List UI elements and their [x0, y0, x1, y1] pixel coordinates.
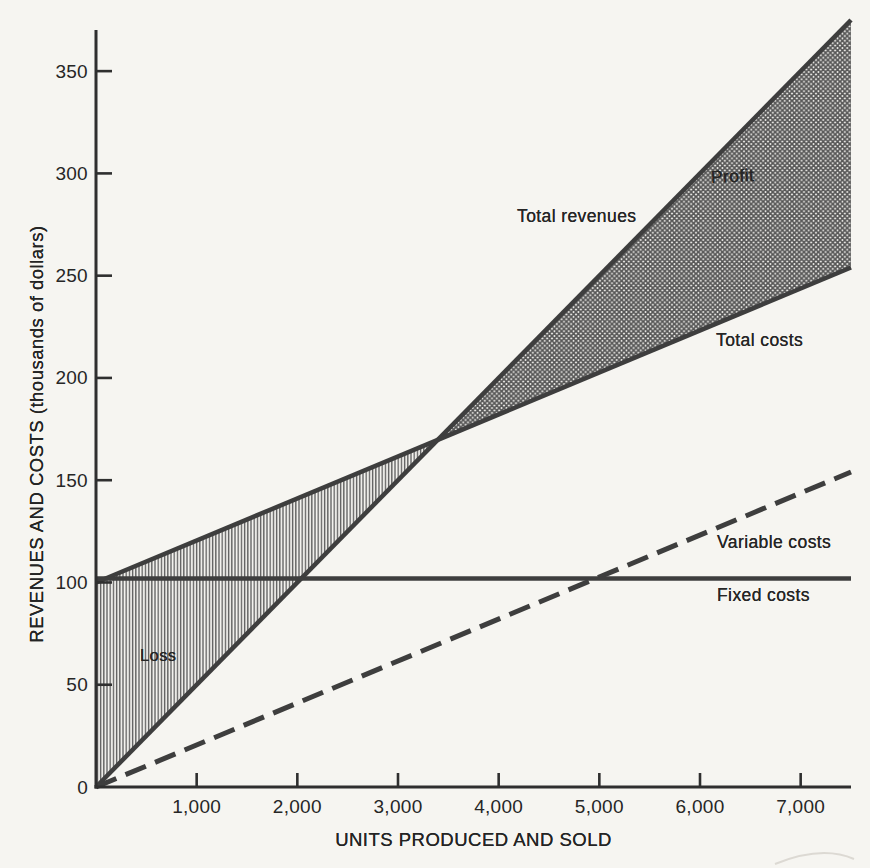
loss-region-label: Loss	[140, 646, 176, 665]
total-revenues-line	[96, 20, 851, 787]
scan-page-curl-artifact	[775, 853, 854, 864]
x-tick-label: 1,000	[172, 796, 221, 817]
x-axis-title: UNITS PRODUCED AND SOLD	[96, 829, 851, 851]
y-tick-label: 300	[55, 163, 88, 184]
x-tick-label: 4,000	[474, 796, 523, 817]
variable-costs-line-label: Variable costs	[717, 532, 831, 553]
y-tick-label: 50	[66, 674, 88, 695]
total-revenues-line-label: Total revenues	[517, 206, 636, 227]
x-tick-label: 5,000	[575, 796, 624, 817]
fixed-costs-line-label: Fixed costs	[717, 585, 810, 606]
profit-region-label: Profit	[710, 165, 754, 188]
y-axis-title: REVENUES AND COSTS (thousands of dollars…	[26, 225, 48, 642]
y-tick-label: 0	[77, 777, 88, 798]
y-tick-label: 250	[55, 265, 88, 286]
break-even-chart-figure: 0501001502002503003501,0002,0003,0004,00…	[0, 0, 870, 868]
y-tick-label: 350	[55, 61, 88, 82]
x-tick-label: 6,000	[675, 796, 724, 817]
y-tick-label: 100	[55, 572, 88, 593]
chart-canvas: 0501001502002503003501,0002,0003,0004,00…	[0, 0, 870, 868]
total-costs-line-label: Total costs	[716, 330, 803, 351]
x-tick-label: 2,000	[273, 796, 322, 817]
y-tick-label: 150	[55, 470, 88, 491]
y-tick-label: 200	[55, 367, 88, 388]
x-tick-label: 7,000	[776, 796, 825, 817]
x-tick-label: 3,000	[373, 796, 422, 817]
